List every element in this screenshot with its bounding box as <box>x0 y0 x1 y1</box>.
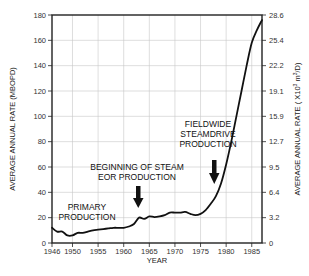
x-tick-label: 1970 <box>167 247 184 256</box>
x-tick-label: 1965 <box>141 247 158 256</box>
svg-text:PRIMARY: PRIMARY <box>68 202 107 212</box>
right-axis-ticks: 03.26.49.512.715.919.122.225.428.6 <box>262 11 284 248</box>
annotation-primary-production: PRIMARY PRODUCTION <box>58 202 115 222</box>
left-tick-label: 180 <box>33 11 46 20</box>
left-axis-ticks: 020406080100120140160180 <box>33 11 52 248</box>
left-tick-label: 140 <box>33 61 46 70</box>
right-tick-label: 12.7 <box>269 137 284 146</box>
svg-text:PRODUCTION: PRODUCTION <box>58 212 115 222</box>
left-tick-label: 160 <box>33 36 46 45</box>
right-axis-title: AVERAGE ANNUAL RATE ( X103 m3/D) <box>292 62 302 195</box>
right-tick-label: 0 <box>269 239 273 248</box>
production-rate-chart: 020406080100120140160180 03.26.49.512.71… <box>0 0 309 276</box>
left-tick-label: 100 <box>33 112 46 121</box>
left-tick-label: 20 <box>38 213 46 222</box>
right-tick-label: 3.2 <box>269 213 279 222</box>
left-tick-label: 80 <box>38 137 46 146</box>
right-tick-label: 22.2 <box>269 61 284 70</box>
right-tick-label: 9.5 <box>269 163 279 172</box>
svg-text:STEAMDRIVE: STEAMDRIVE <box>180 129 236 139</box>
svg-text:EOR PRODUCTION: EOR PRODUCTION <box>98 172 176 182</box>
svg-text:FIELDWIDE: FIELDWIDE <box>185 119 232 129</box>
arrow-down-icon <box>133 186 144 208</box>
x-tick-label: 1980 <box>218 247 235 256</box>
right-tick-label: 6.4 <box>269 188 279 197</box>
annotation-fieldwide-steamdrive: FIELDWIDE STEAMDRIVE PRODUCTION <box>179 119 236 184</box>
left-tick-label: 120 <box>33 87 46 96</box>
left-tick-label: 40 <box>38 188 46 197</box>
left-axis-title: AVERAGE ANNUAL RATE (MBOPD) <box>8 67 17 191</box>
x-axis-title: YEAR <box>147 256 168 265</box>
x-tick-label: 1955 <box>90 247 107 256</box>
x-tick-label: 1975 <box>192 247 209 256</box>
svg-text:BEGINNING OF STEAM: BEGINNING OF STEAM <box>90 162 184 172</box>
x-tick-label: 1950 <box>64 247 81 256</box>
right-tick-label: 28.6 <box>269 11 284 20</box>
right-tick-label: 19.1 <box>269 87 284 96</box>
right-tick-label: 15.9 <box>269 112 284 121</box>
x-tick-label: 1985 <box>243 247 260 256</box>
svg-text:PRODUCTION: PRODUCTION <box>179 139 236 149</box>
x-tick-label: 1960 <box>115 247 132 256</box>
arrow-down-icon <box>209 160 220 184</box>
right-tick-label: 25.4 <box>269 36 284 45</box>
x-axis-ticks: 194619501955196019651970197519801985 <box>44 243 260 256</box>
x-tick-label: 1946 <box>44 247 61 256</box>
left-tick-label: 60 <box>38 163 46 172</box>
